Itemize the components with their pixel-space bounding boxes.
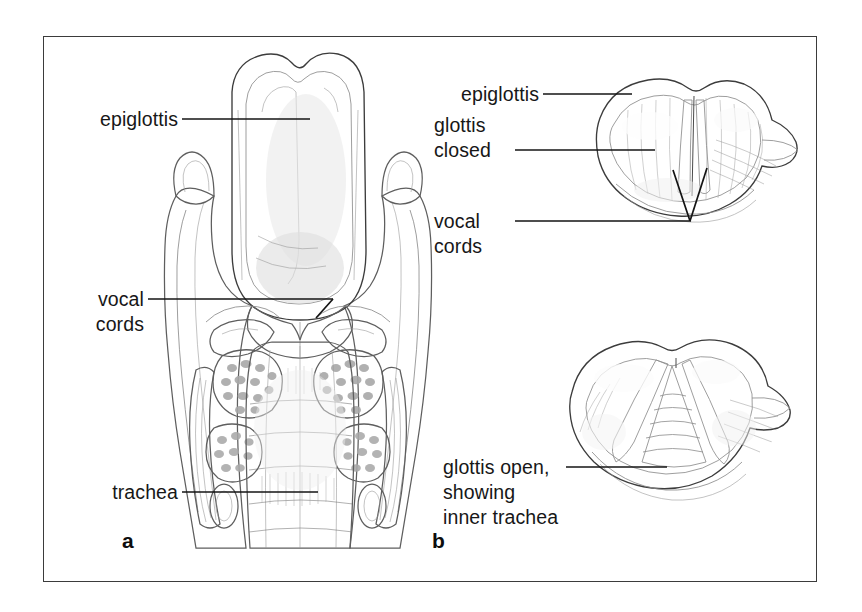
- labels-panel-b: epiglottis glottis closed vocal cords gl…: [432, 83, 558, 552]
- label-epiglottis-b: epiglottis: [461, 83, 539, 105]
- label-glottis-open-line1: glottis open,: [443, 456, 549, 478]
- panel-a-illustration: [164, 53, 431, 548]
- anatomy-illustration: epiglottis vocal cords trachea a epiglot…: [0, 0, 862, 612]
- panel-b-glottis-open: [570, 340, 791, 500]
- panel-letter-a: a: [122, 529, 134, 552]
- label-trachea-a: trachea: [112, 481, 178, 503]
- label-glottis-closed-line1: glottis: [434, 114, 486, 136]
- label-vocal-cords-b-line1: vocal: [434, 210, 480, 232]
- figure-root: epiglottis vocal cords trachea a epiglot…: [0, 0, 862, 612]
- label-epiglottis-a: epiglottis: [100, 108, 178, 130]
- panel-letter-b: b: [432, 529, 445, 552]
- label-vocal-cords-a-line1: vocal: [98, 288, 144, 310]
- label-glottis-closed-line2: closed: [434, 139, 491, 161]
- epiglottis-structure: [232, 53, 366, 320]
- label-glottis-open-line2: showing: [443, 481, 515, 503]
- label-vocal-cords-a-line2: cords: [96, 313, 144, 335]
- label-glottis-open-line3: inner trachea: [443, 506, 558, 528]
- label-vocal-cords-b-line2: cords: [434, 235, 482, 257]
- trachea-structure: [246, 342, 354, 548]
- vocal-fold-region: [206, 306, 390, 358]
